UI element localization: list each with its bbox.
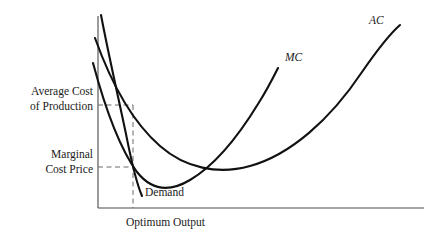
ac-curve [95,25,400,170]
marginal-cost-label-line2: Cost Price [45,163,93,175]
axes [98,16,424,208]
curves [93,15,400,196]
cost-curves-figure: MC AC Demand Average Cost of Production … [0,0,428,244]
average-cost-label-line2: of Production [30,100,93,112]
chart-svg: MC AC Demand Average Cost of Production … [0,0,428,244]
x-axis-caption: Optimum Output [126,216,206,229]
mc-curve-label: MC [284,51,303,63]
ac-curve-label: AC [368,14,384,26]
average-cost-label-line1: Average Cost [31,85,94,98]
mc-curve [93,63,278,188]
demand-curve-label: Demand [145,186,184,198]
marginal-cost-label-line1: Marginal [51,148,93,161]
